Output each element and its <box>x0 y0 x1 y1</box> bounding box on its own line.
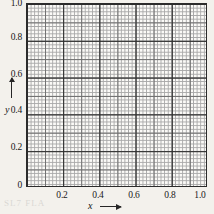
x-tick-label-0.6: 0.6 <box>121 190 147 200</box>
x-tick-label-0.4: 0.4 <box>85 190 111 200</box>
y-axis-arrow-icon <box>11 78 12 98</box>
plot-grid-area <box>26 3 207 187</box>
y-tick-label-1.0: 1.0 <box>0 0 22 8</box>
y-tick-label-0.4: 0.4 <box>0 105 22 115</box>
x-tick-label-0.8: 0.8 <box>157 190 183 200</box>
x-tick-label-1.0: 1.0 <box>187 190 213 200</box>
y-tick-label-0: 0 <box>0 180 22 190</box>
scan-artifact: SL7 FLA <box>4 198 78 212</box>
y-tick-label-0.8: 0.8 <box>0 32 22 42</box>
y-axis-label: y <box>5 104 9 115</box>
y-tick-label-0.2: 0.2 <box>0 142 22 152</box>
graph-paper-figure: 1.0 0.8 0.6 0.4 0.2 0 0.2 0.4 0.6 0.8 1.… <box>0 0 214 214</box>
x-axis-arrow-icon <box>100 206 121 207</box>
x-axis-label: x <box>88 200 92 211</box>
